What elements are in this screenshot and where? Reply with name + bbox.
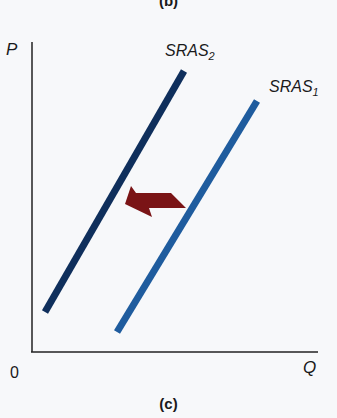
y-axis-label: P <box>6 40 17 60</box>
origin-label: 0 <box>10 364 19 382</box>
shift-left-arrow-icon <box>125 186 186 217</box>
figure-caption: (c) <box>0 395 337 412</box>
sras1-label: SRAS1 <box>269 78 319 98</box>
sras2-curve <box>45 71 184 312</box>
chart-plot <box>0 0 337 418</box>
x-axis-label: Q <box>303 358 316 378</box>
sras2-label-sub: 2 <box>209 50 215 62</box>
sras1-curve <box>117 101 257 332</box>
sras1-label-main: SRAS <box>269 78 313 95</box>
sras1-label-sub: 1 <box>313 86 319 98</box>
sras2-label: SRAS2 <box>165 42 215 62</box>
sras2-label-main: SRAS <box>165 42 209 59</box>
